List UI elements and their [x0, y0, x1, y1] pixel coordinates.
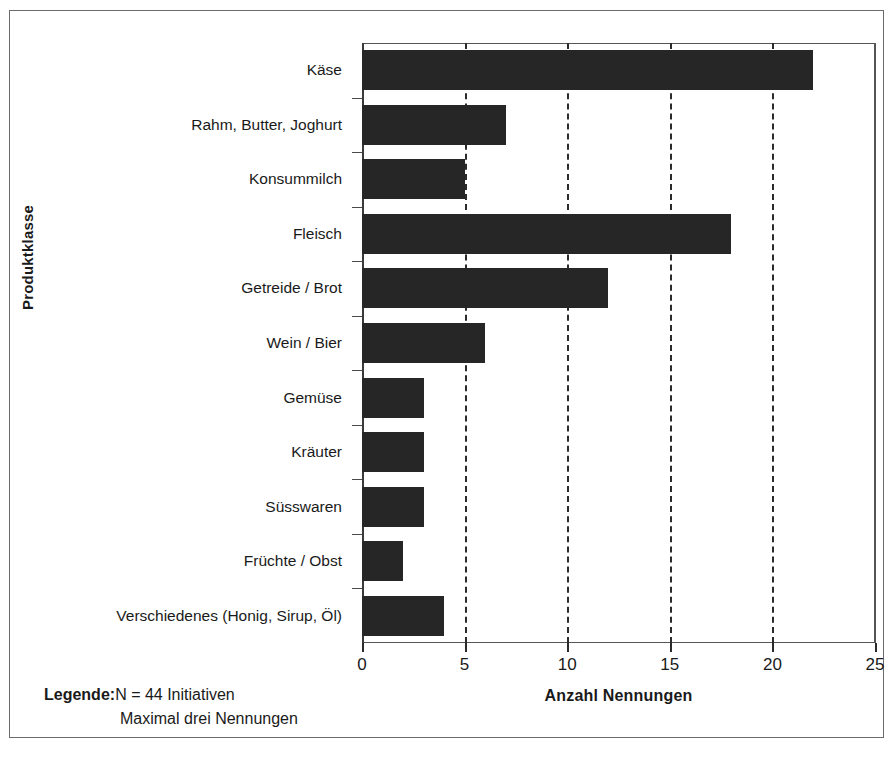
x-tick-label-15: 15	[645, 655, 695, 675]
category-label: Getreide / Brot	[241, 277, 342, 299]
legend-text-initiativen: N = 44 Initiativen	[115, 686, 235, 703]
x-tick-label-20: 20	[747, 655, 797, 675]
figure-frame: Produktklasse KäseRahm, Butter, JoghurtK…	[9, 10, 884, 738]
x-tick-20	[772, 643, 774, 652]
bar	[362, 214, 731, 254]
x-tick-15	[670, 643, 672, 652]
x-tick-25	[875, 643, 877, 652]
legend-title: Legende:	[44, 686, 115, 703]
bar	[362, 487, 424, 527]
bar	[362, 50, 813, 90]
y-tick	[352, 152, 362, 153]
category-label: Käse	[307, 59, 342, 81]
category-label: Kräuter	[291, 441, 342, 463]
legend-block: Legende:N = 44 Initiativen Maximal drei …	[44, 683, 298, 731]
category-label: Verschiedenes (Honig, Sirup, Öl)	[116, 605, 342, 627]
x-tick-label-25: 25	[850, 655, 893, 675]
x-axis-title: Anzahl Nennungen	[362, 687, 875, 705]
x-axis-tick-labels: 0510152025	[362, 655, 875, 679]
y-tick	[352, 316, 362, 317]
bar	[362, 159, 465, 199]
bar	[362, 378, 424, 418]
category-label: Wein / Bier	[266, 332, 342, 354]
legend-first-line: Legende:N = 44 Initiativen	[44, 683, 298, 707]
y-tick	[352, 98, 362, 99]
y-tick	[352, 534, 362, 535]
x-tick-label-5: 5	[440, 655, 490, 675]
category-label: Gemüse	[283, 387, 342, 409]
x-tick-5	[465, 643, 467, 652]
gridline-20	[772, 43, 774, 643]
bar	[362, 323, 485, 363]
legend-text-nennungen: Maximal drei Nennungen	[44, 707, 298, 731]
gridline-15	[670, 43, 672, 643]
x-tick-label-0: 0	[337, 655, 387, 675]
category-label: Süsswaren	[265, 496, 342, 518]
category-label: Rahm, Butter, Joghurt	[191, 114, 342, 136]
y-axis-title: Produktklasse	[19, 163, 36, 353]
bar	[362, 541, 403, 581]
y-tick	[352, 261, 362, 262]
plot-area	[362, 43, 875, 643]
y-tick	[352, 370, 362, 371]
gridline-25	[875, 43, 876, 643]
category-label: Konsummilch	[249, 168, 342, 190]
y-tick	[352, 425, 362, 426]
bar	[362, 105, 506, 145]
y-tick	[352, 207, 362, 208]
y-tick	[352, 479, 362, 480]
y-tick	[352, 588, 362, 589]
category-label: Fleisch	[293, 223, 342, 245]
x-tick-10	[567, 643, 569, 652]
category-label: Früchte / Obst	[244, 550, 342, 572]
gridline-10	[567, 43, 569, 643]
x-tick-label-10: 10	[542, 655, 592, 675]
y-axis-category-labels: KäseRahm, Butter, JoghurtKonsummilchFlei…	[40, 33, 352, 643]
bar	[362, 596, 444, 636]
bar	[362, 268, 608, 308]
bar	[362, 432, 424, 472]
x-tick-0	[362, 643, 364, 652]
